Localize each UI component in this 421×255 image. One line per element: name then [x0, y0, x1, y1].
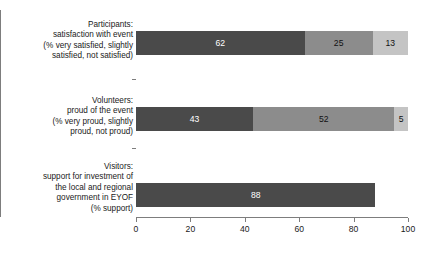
x-axis-tick	[136, 218, 137, 222]
category-label-participants: Participants: satisfaction with event (%…	[8, 20, 136, 62]
x-axis-tick-label: 0	[121, 224, 151, 234]
y-axis-tick	[132, 79, 136, 80]
x-axis-tick	[190, 218, 191, 222]
x-axis-tick	[245, 218, 246, 222]
bar-1-segment-1: 52	[253, 107, 394, 131]
x-axis-line	[136, 217, 408, 218]
category-label-visitors: Visitors: support for investment of the …	[8, 162, 136, 214]
bar-0: 622513	[136, 31, 408, 55]
x-axis-tick-label: 100	[393, 224, 421, 234]
y-axis-line	[0, 10, 1, 217]
bar-0-segment-0: 62	[136, 31, 305, 55]
x-axis-tick	[408, 218, 409, 222]
x-axis-tick-label: 60	[284, 224, 314, 234]
x-axis-tick	[354, 218, 355, 222]
bar-0-segment-2: 13	[373, 31, 408, 55]
x-axis-tick-label: 40	[230, 224, 260, 234]
bar-2-segment-0: 88	[136, 183, 375, 207]
bar-0-segment-1: 25	[305, 31, 373, 55]
bar-1-segment-2: 5	[394, 107, 408, 131]
x-axis-tick	[299, 218, 300, 222]
bar-1: 43525	[136, 107, 408, 131]
bar-2: 88	[136, 183, 375, 207]
bar-1-segment-0: 43	[136, 107, 253, 131]
x-axis-tick-label: 80	[339, 224, 369, 234]
x-axis-tick-label: 20	[175, 224, 205, 234]
category-label-volunteers: Volunteers: proud of the event (% very p…	[8, 96, 136, 138]
y-axis-tick	[132, 148, 136, 149]
stacked-bar-chart: Participants: satisfaction with event (%…	[0, 0, 421, 255]
